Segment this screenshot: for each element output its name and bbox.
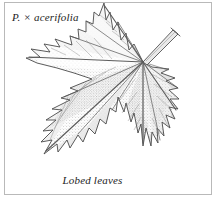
species-label: P. × acerifolia <box>12 11 79 24</box>
figure-caption: Lobed leaves <box>0 173 217 187</box>
petiole <box>143 28 180 65</box>
blade-shading <box>26 3 179 154</box>
botanical-plate: P. × acerifolia Lobed leaves <box>0 0 217 198</box>
leaf-illustration <box>0 0 217 198</box>
caption-text: Lobed leaves <box>62 174 122 186</box>
species-name: P. × acerifolia <box>12 11 79 23</box>
